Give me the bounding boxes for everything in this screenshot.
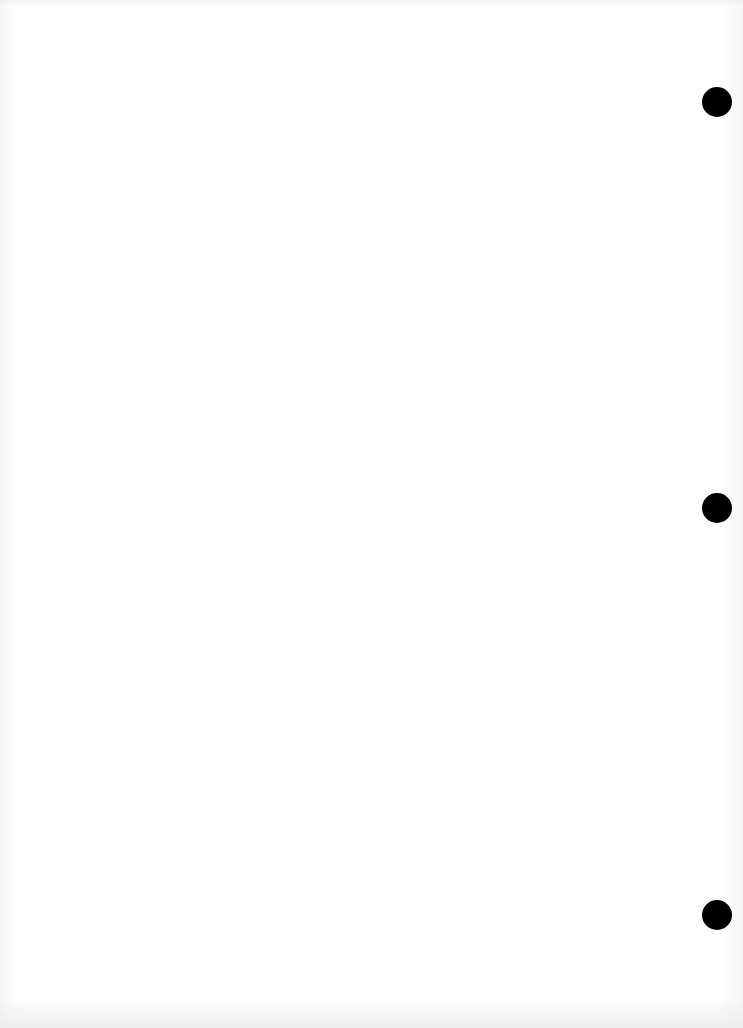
punch-hole-bottom [702, 900, 732, 930]
scanned-page [0, 0, 743, 1028]
page-bottom-shadow [0, 998, 743, 1028]
punch-hole-top [702, 87, 732, 117]
punch-hole-middle [702, 493, 732, 523]
page-top-shadow [0, 0, 743, 6]
